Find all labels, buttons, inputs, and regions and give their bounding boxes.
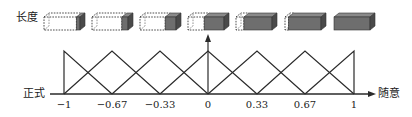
membership-triangle [64,51,160,94]
x-axis-arrow-icon [368,91,376,97]
box-solid-front [289,17,321,30]
length-boxes [44,13,375,30]
tick-label: −0.33 [145,99,176,110]
box-dashed-front [92,17,122,30]
box-solid-front [334,17,370,30]
tick-label: 0.33 [246,99,268,110]
tick-label: −0.67 [97,99,128,110]
tick-label: −1 [57,99,72,110]
length-box [92,13,133,30]
box-solid-front [76,17,80,30]
membership-triangle [112,51,208,94]
membership-triangle [208,51,305,94]
length-box [236,13,277,30]
length-box [44,13,85,30]
length-box [285,13,326,30]
box-solid-top [244,13,277,17]
box-solid-front [122,17,128,30]
length-box [188,13,229,30]
tick-label: 0 [205,99,211,110]
box-solid-front [244,17,272,30]
membership-triangle [257,51,354,94]
triangular-membership-functions [64,51,354,94]
box-dashed-top [44,13,81,17]
box-solid-front [165,17,176,30]
length-box [140,13,181,30]
y-axis-arrow-icon [205,34,211,42]
box-dashed-front [236,17,244,30]
box-solid-top [334,13,375,17]
axes [50,34,376,97]
box-dashed-front [140,17,165,30]
box-solid-top [289,13,326,17]
tick-label: 1 [351,99,357,110]
box-solid-front [204,17,224,30]
tick-label: 0.67 [294,99,316,110]
length-box [334,13,375,30]
